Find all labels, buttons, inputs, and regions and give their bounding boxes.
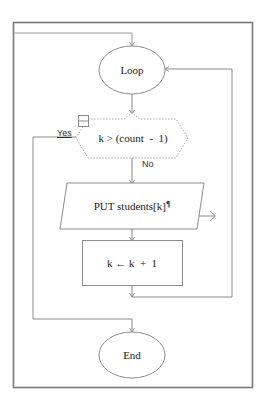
yes-branch-connector <box>33 137 132 331</box>
yes-branch-label: Yes <box>57 129 72 138</box>
condition-node-label: k > (count - 1) <box>98 133 167 144</box>
loop-node-label: Loop <box>120 65 143 76</box>
increment-node-label: k ← k + 1 <box>107 258 157 269</box>
entry-connector <box>14 33 132 45</box>
output-node-label-wrap: PUT students[k]¶ <box>94 201 171 212</box>
pilcrow-mark: ¶ <box>166 200 170 209</box>
collapse-box-icon[interactable] <box>79 116 89 127</box>
output-node-label: PUT students[k] <box>94 200 166 212</box>
end-node-label: End <box>123 350 141 361</box>
no-branch-label: No <box>142 160 154 169</box>
